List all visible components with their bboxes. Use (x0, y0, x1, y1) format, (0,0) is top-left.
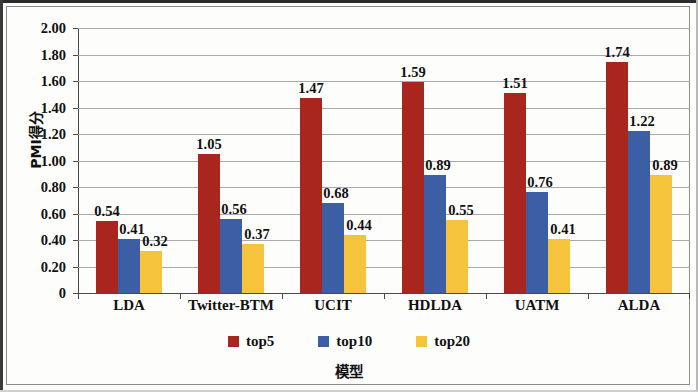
y-axis-tick-mark (73, 134, 78, 135)
bar[interactable]: 1.47 (300, 98, 322, 293)
bar-group: 1.510.760.41 (504, 28, 570, 293)
legend-label: top5 (246, 334, 274, 349)
y-axis-tick-label: 1.20 (41, 127, 66, 142)
bar-value-label: 1.51 (502, 75, 527, 92)
bar[interactable]: 1.51 (504, 93, 526, 293)
gridline (78, 187, 690, 188)
gridline (78, 240, 690, 241)
legend-item[interactable]: top5 (228, 334, 274, 349)
bar-value-label: 1.74 (604, 44, 629, 61)
bar[interactable]: 1.05 (198, 154, 220, 293)
bar[interactable]: 0.89 (424, 175, 446, 293)
bar-value-label: 0.55 (448, 202, 473, 219)
y-axis-tick-label: 2.00 (41, 21, 66, 36)
bar-value-label: 0.89 (425, 157, 450, 174)
y-axis-tick-mark (73, 55, 78, 56)
y-axis-tick-label: 1.80 (41, 47, 66, 62)
bar-group: 0.540.410.32 (96, 28, 162, 293)
bar[interactable]: 0.41 (548, 239, 570, 293)
y-axis-tick-label: 1.00 (41, 153, 66, 168)
bar-value-label: 0.89 (652, 157, 677, 174)
legend-swatch-icon (318, 336, 329, 347)
x-axis-title: 模型 (0, 360, 698, 381)
legend-swatch-icon (416, 336, 427, 347)
chart-figure: PMI得分 2.001.801.601.401.201.000.800.600.… (0, 0, 698, 392)
x-axis-category-label: ALDA (618, 297, 661, 314)
plot-area: 0.540.410.321.050.560.371.470.680.441.59… (78, 28, 690, 293)
x-axis-category-label: Twitter-BTM (188, 297, 274, 314)
bar[interactable]: 0.56 (220, 219, 242, 293)
bar-value-label: 1.05 (196, 136, 221, 153)
bar[interactable]: 0.41 (118, 239, 140, 293)
y-axis-tick-label: 0.80 (41, 180, 66, 195)
bar-value-label: 0.41 (550, 221, 575, 238)
bar[interactable]: 0.55 (446, 220, 468, 293)
y-axis-tick-label: 0.20 (41, 259, 66, 274)
x-axis-category-label: UCIT (314, 297, 352, 314)
bar[interactable]: 1.74 (606, 62, 628, 293)
x-axis-category-label: HDLDA (408, 297, 462, 314)
bar-value-label: 0.41 (119, 221, 144, 238)
gridline (78, 214, 690, 215)
bar[interactable]: 0.37 (242, 244, 264, 293)
bar-group: 1.470.680.44 (300, 28, 366, 293)
bar-value-label: 0.37 (244, 226, 269, 243)
gridline (78, 55, 690, 56)
legend-label: top10 (336, 334, 372, 349)
y-axis-tick-label: 0.60 (41, 206, 66, 221)
bar-group: 1.590.890.55 (402, 28, 468, 293)
bar[interactable]: 0.44 (344, 235, 366, 293)
gridline (78, 267, 690, 268)
y-axis-tick-mark (73, 187, 78, 188)
y-axis-tick-mark (73, 81, 78, 82)
y-axis-tick-mark (73, 240, 78, 241)
gridline (78, 28, 690, 29)
bar[interactable]: 0.54 (96, 221, 118, 293)
bar[interactable]: 0.68 (322, 203, 344, 293)
bar[interactable]: 0.76 (526, 192, 548, 293)
legend-label: top20 (434, 334, 470, 349)
bar-value-label: 1.22 (629, 113, 654, 130)
x-axis-category-label: UATM (515, 297, 560, 314)
y-axis-tick-label: 1.60 (41, 74, 66, 89)
bar-value-label: 1.47 (298, 80, 323, 97)
bar-value-label: 0.68 (323, 185, 348, 202)
bar[interactable]: 0.89 (650, 175, 672, 293)
bar-value-label: 0.76 (527, 174, 552, 191)
y-axis-tick-label: 1.40 (41, 100, 66, 115)
x-axis-category-labels: LDATwitter-BTMUCITHDLDAUATMALDA (78, 297, 690, 319)
bar[interactable]: 0.32 (140, 251, 162, 293)
x-axis-category-label: LDA (113, 297, 145, 314)
bar-value-label: 0.44 (346, 217, 371, 234)
y-axis-tick-label: 0 (59, 286, 66, 301)
bar[interactable]: 1.22 (628, 131, 650, 293)
bar-value-label: 0.56 (221, 201, 246, 218)
legend-swatch-icon (228, 336, 239, 347)
y-axis-tick-mark (73, 214, 78, 215)
frame-border-top (0, 0, 698, 3)
y-axis-tick-mark (73, 108, 78, 109)
y-axis-tick-label: 0.40 (41, 233, 66, 248)
gridline (78, 161, 690, 162)
bar-value-label: 1.59 (400, 64, 425, 81)
gridline (78, 134, 690, 135)
gridline (78, 108, 690, 109)
y-axis-tick-mark (73, 161, 78, 162)
bar-value-label: 0.54 (94, 203, 119, 220)
bar-group: 1.741.220.89 (606, 28, 672, 293)
bar-value-label: 0.32 (142, 233, 167, 250)
legend-item[interactable]: top20 (416, 334, 470, 349)
y-axis-tick-mark (73, 28, 78, 29)
bar[interactable]: 1.59 (402, 82, 424, 293)
y-axis-tick-labels: 2.001.801.601.401.201.000.800.600.400.20… (0, 28, 74, 293)
chart-legend: top5top10top20 (0, 334, 698, 349)
legend-item[interactable]: top10 (318, 334, 372, 349)
y-axis-tick-mark (73, 267, 78, 268)
bar-group: 1.050.560.37 (198, 28, 264, 293)
gridline (78, 81, 690, 82)
